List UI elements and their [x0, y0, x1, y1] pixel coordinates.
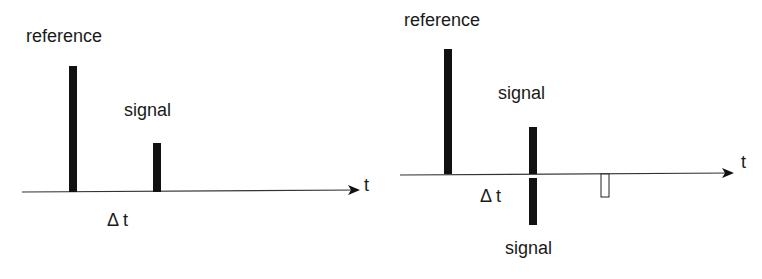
right-axis-label: t [741, 152, 746, 172]
right-panel: t reference signal Δ t signal [400, 10, 746, 258]
right-delta-t-label: Δ t [480, 186, 501, 206]
right-residual-pulse [601, 174, 609, 197]
right-reference-pulse [444, 49, 452, 174]
right-reference-label: reference [404, 10, 480, 30]
left-reference-label: reference [26, 26, 102, 46]
left-signal-label: signal [124, 100, 171, 120]
pulse-diagram: t reference signal Δ t t reference signa… [0, 0, 762, 279]
right-signal-pulse-positive [529, 127, 537, 174]
left-reference-pulse [69, 66, 77, 192]
right-signal-up-label: signal [498, 83, 545, 103]
left-axis-label: t [364, 175, 369, 195]
left-signal-pulse [153, 143, 161, 192]
right-signal-pulse-negative [529, 178, 537, 225]
right-signal-down-label: signal [505, 238, 552, 258]
left-panel: t reference signal Δ t [22, 26, 369, 230]
left-delta-t-label: Δ t [107, 210, 128, 230]
